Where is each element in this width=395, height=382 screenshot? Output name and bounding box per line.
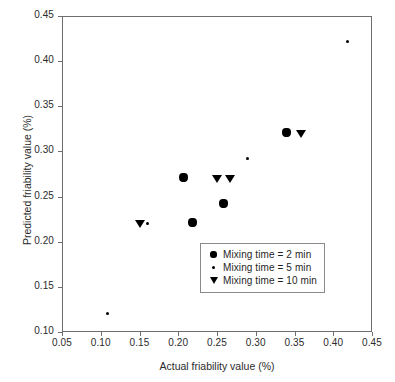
legend-item: Mixing time = 10 min [207,274,317,287]
data-point-marker [179,173,188,182]
data-point-marker [212,175,222,183]
data-point-marker [296,130,306,138]
x-axis-tick [178,332,179,336]
data-point-marker [246,157,249,160]
triangle-down-icon [210,277,218,284]
x-axis-tick [140,332,141,336]
y-axis-tick-label: 0.40 [8,54,54,65]
x-axis-title: Actual friability value (%) [62,360,372,372]
x-axis-tick [295,332,296,336]
y-axis-tick [58,61,62,62]
data-point-marker [188,218,197,227]
data-point-marker [146,222,149,225]
y-axis-tick [58,151,62,152]
x-axis-tick-label: 0.45 [349,337,395,348]
x-axis-tick [62,332,63,336]
x-axis-tick [217,332,218,336]
y-axis-tick [58,332,62,333]
dot-icon [212,266,215,269]
legend-item-label: Mixing time = 10 min [223,275,317,286]
chart-legend: Mixing time = 2 minMixing time = 5 minMi… [200,243,325,293]
y-axis-tick-label: 0.15 [8,280,54,291]
legend-item-label: Mixing time = 5 min [223,262,311,273]
diamond-icon [210,251,217,258]
y-axis-tick [58,242,62,243]
scatter-chart-figure: 0.050.100.150.200.250.300.350.400.45 0.1… [0,0,395,382]
y-axis-tick [58,197,62,198]
data-point-marker [219,199,228,208]
x-axis-tick [256,332,257,336]
legend-marker-icon [207,251,220,258]
y-axis-tick-label: 0.10 [8,325,54,336]
y-axis-tick [58,287,62,288]
legend-item-label: Mixing time = 2 min [223,249,311,260]
legend-item: Mixing time = 2 min [207,248,317,261]
y-axis-tick [58,16,62,17]
y-axis-tick [58,106,62,107]
y-axis-tick-label: 0.45 [8,9,54,20]
x-axis-tick [372,332,373,336]
x-axis-tick [101,332,102,336]
legend-item: Mixing time = 5 min [207,261,317,274]
legend-marker-icon [207,266,220,269]
data-point-marker [225,175,235,183]
y-axis-title: Predicted friability value (%) [21,85,33,275]
x-axis-tick [333,332,334,336]
legend-marker-icon [207,277,220,284]
data-point-marker [282,128,291,137]
data-point-marker [135,220,145,228]
